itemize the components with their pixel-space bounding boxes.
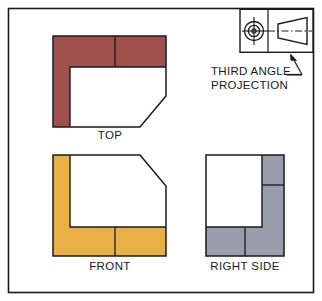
- front-view-group: FRONT: [53, 155, 166, 272]
- drawing-sheet: TOP FRONT: [0, 0, 322, 301]
- annotation-line-1: THIRD ANGLE: [211, 65, 291, 77]
- annotation-line-2: PROJECTION: [211, 79, 288, 91]
- top-view-label: TOP: [98, 129, 123, 141]
- front-view-label: FRONT: [89, 260, 131, 272]
- third-angle-projection-symbol: [240, 9, 313, 52]
- right-side-view-label: RIGHT SIDE: [210, 260, 280, 272]
- engineering-drawing-canvas: TOP FRONT: [0, 0, 322, 301]
- right-side-view-group: RIGHT SIDE: [206, 155, 284, 272]
